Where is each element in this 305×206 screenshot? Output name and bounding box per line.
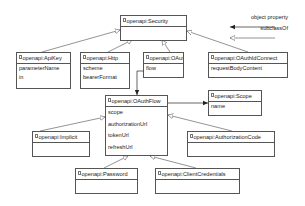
edge-clientcreds-oauthflow <box>150 156 196 168</box>
class-name: openapi:ClientCredentials <box>162 171 226 177</box>
class-header: openapi:OAuthFlow <box>106 96 167 107</box>
class-name: openapi:Implicit <box>39 134 78 140</box>
class-oauthidconnect[interactable]: openapi:OAuthIdConnect requestBodyConten… <box>208 52 288 78</box>
class-authorizationcode[interactable]: openapi:AuthorizationCode <box>187 131 275 157</box>
attribute: scheme <box>81 64 129 73</box>
class-name: openapi:Password <box>82 171 128 177</box>
legend-object-property: object property <box>230 14 288 25</box>
edge-password-oauthflow <box>104 156 128 168</box>
class-header: openapi:OAuth2 <box>144 53 183 64</box>
legend-subclass-of: subclassOf <box>230 25 288 36</box>
edge-implicit-oauthflow <box>40 117 105 131</box>
edge-http-security <box>108 40 132 52</box>
class-password[interactable]: openapi:Password <box>75 168 138 194</box>
class-header: openapi:Password <box>76 169 137 180</box>
class-name: openapi:OAuth2 <box>150 55 184 61</box>
class-http[interactable]: openapi:Http scheme bearerFormat <box>80 52 130 89</box>
class-name: openapi:Scope <box>215 93 252 99</box>
class-clientcredentials[interactable]: openapi:ClientCredentials <box>155 168 240 194</box>
attribute: requestBodyContent <box>209 64 287 73</box>
class-header: openapi:Security <box>121 16 186 27</box>
class-header: openapi:OAuthIdConnect <box>209 53 287 64</box>
legend-subclass-of-label: subclassOf <box>260 25 288 31</box>
attribute: tokenUrl <box>106 130 167 142</box>
class-oauth2[interactable]: openapi:OAuth2 flow <box>143 52 184 78</box>
legend: object property subclassOf <box>230 14 288 36</box>
class-implicit[interactable]: openapi:Implicit <box>32 131 90 157</box>
class-header: openapi:Implicit <box>33 132 89 143</box>
class-apikey[interactable]: openapi:ApiKey parameterName in <box>16 52 71 89</box>
attribute: in <box>17 73 70 82</box>
legend-object-property-label: object property <box>251 14 288 20</box>
edge-apikey-security <box>42 30 120 52</box>
class-header: openapi:ClientCredentials <box>156 169 239 180</box>
class-header: openapi:Scope <box>209 91 261 102</box>
attribute: authorizationUrl <box>106 119 167 131</box>
attribute: name <box>209 102 261 111</box>
class-name: openapi:AuthorizationCode <box>194 134 262 140</box>
class-header: openapi:ApiKey <box>17 53 70 64</box>
edge-oauth2-security <box>162 40 170 52</box>
class-scope[interactable]: openapi:Scope name <box>208 90 262 116</box>
class-name: openapi:Http <box>87 55 119 61</box>
attribute: refreshUrl <box>106 142 167 154</box>
attribute: scope <box>106 107 167 119</box>
attribute: parameterName <box>17 64 70 73</box>
edge-authcode-oauthflow <box>168 115 232 131</box>
class-oauthflow[interactable]: openapi:OAuthFlow scope authorizationUrl… <box>105 95 168 156</box>
class-name: openapi:ApiKey <box>23 55 62 61</box>
class-header: openapi:AuthorizationCode <box>188 132 274 143</box>
attribute: flow <box>144 64 183 73</box>
attribute: bearerFormat <box>81 73 129 82</box>
class-name: openapi:OAuthFlow <box>112 98 161 104</box>
class-name: openapi:Security <box>127 18 169 24</box>
class-header: openapi:Http <box>81 53 129 64</box>
class-security[interactable]: openapi:Security <box>120 15 187 41</box>
class-name: openapi:OAuthIdConnect <box>215 55 278 61</box>
